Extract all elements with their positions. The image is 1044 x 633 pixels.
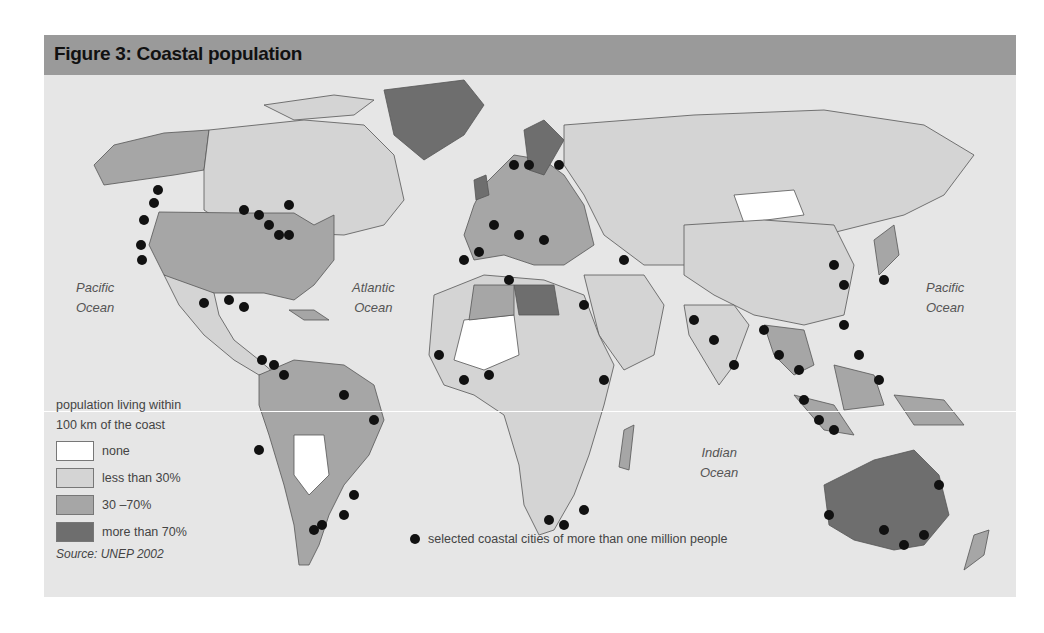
legend-swatch (56, 441, 94, 461)
figure-title: Figure 3: Coastal population (54, 43, 302, 65)
ocean-label-line: Ocean (700, 463, 738, 483)
city-dot-icon (410, 534, 420, 544)
ocean-label-line: Ocean (352, 298, 395, 318)
ocean-label-line: Atlantic (352, 278, 395, 298)
ocean-label-line: Pacific (926, 278, 964, 298)
ocean-label-pacific-west: Pacific Ocean (76, 278, 114, 318)
city-legend: selected coastal cities of more than one… (410, 532, 727, 546)
source-note: Source: UNEP 2002 (56, 547, 164, 561)
legend-label: more than 70% (102, 525, 187, 539)
legend: population living within 100 km of the c… (56, 395, 187, 543)
legend-item-less-than-30: less than 30% (56, 466, 187, 489)
legend-swatch (56, 522, 94, 542)
legend-label: 30 –70% (102, 498, 151, 512)
figure-header: Figure 3: Coastal population (44, 35, 1016, 75)
legend-swatch (56, 468, 94, 488)
legend-item-more-than-70: more than 70% (56, 520, 187, 543)
world-map: Pacific Ocean Atlantic Ocean Indian Ocea… (44, 75, 1016, 597)
ocean-label-line: Ocean (926, 298, 964, 318)
ocean-label-indian: Indian Ocean (700, 443, 738, 483)
legend-title-line2: 100 km of the coast (56, 415, 187, 435)
legend-swatch (56, 495, 94, 515)
ocean-label-atlantic: Atlantic Ocean (352, 278, 395, 318)
world-map-graphic (44, 75, 1016, 597)
equator-line (44, 411, 1016, 412)
ocean-label-pacific-east: Pacific Ocean (926, 278, 964, 318)
legend-item-30-70: 30 –70% (56, 493, 187, 516)
ocean-label-line: Pacific (76, 278, 114, 298)
figure-panel: Figure 3: Coastal population (44, 35, 1016, 597)
ocean-label-line: Ocean (76, 298, 114, 318)
legend-item-none: none (56, 439, 187, 462)
legend-label: none (102, 444, 130, 458)
legend-label: less than 30% (102, 471, 181, 485)
city-legend-label: selected coastal cities of more than one… (428, 532, 727, 546)
ocean-label-line: Indian (700, 443, 738, 463)
legend-title-line1: population living within (56, 395, 187, 415)
